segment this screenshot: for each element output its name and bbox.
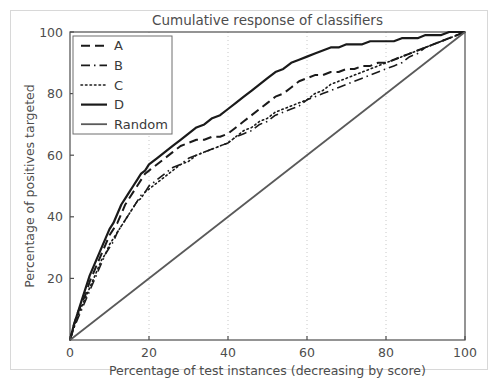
chart-title: Cumulative response of classifiers bbox=[152, 12, 383, 28]
xtick-label-0: 0 bbox=[66, 345, 74, 360]
ytick-label-80: 80 bbox=[47, 86, 63, 101]
legend-label-d: D bbox=[114, 97, 124, 112]
legend: ABCDRandom bbox=[73, 36, 172, 134]
ytick-label-60: 60 bbox=[47, 148, 63, 163]
xtick-label-60: 60 bbox=[299, 345, 315, 360]
ytick-label-40: 40 bbox=[47, 209, 63, 224]
xtick-label-100: 100 bbox=[453, 345, 477, 360]
xtick-label-40: 40 bbox=[220, 345, 236, 360]
ytick-label-20: 20 bbox=[47, 271, 63, 286]
x-axis-label: Percentage of test instances (decreasing… bbox=[109, 363, 426, 378]
cumulative-response-chart: 02040608010020406080100Cumulative respon… bbox=[0, 0, 502, 388]
y-axis-label: Percentage of positives targeted bbox=[22, 84, 37, 287]
ytick-label-100: 100 bbox=[39, 25, 63, 40]
xtick-label-80: 80 bbox=[378, 345, 394, 360]
chart-figure: 02040608010020406080100Cumulative respon… bbox=[0, 0, 502, 388]
xtick-label-20: 20 bbox=[141, 345, 157, 360]
legend-label-b: B bbox=[114, 58, 123, 73]
legend-label-a: A bbox=[114, 38, 123, 53]
legend-label-c: C bbox=[114, 78, 123, 93]
legend-label-random: Random bbox=[114, 117, 168, 132]
